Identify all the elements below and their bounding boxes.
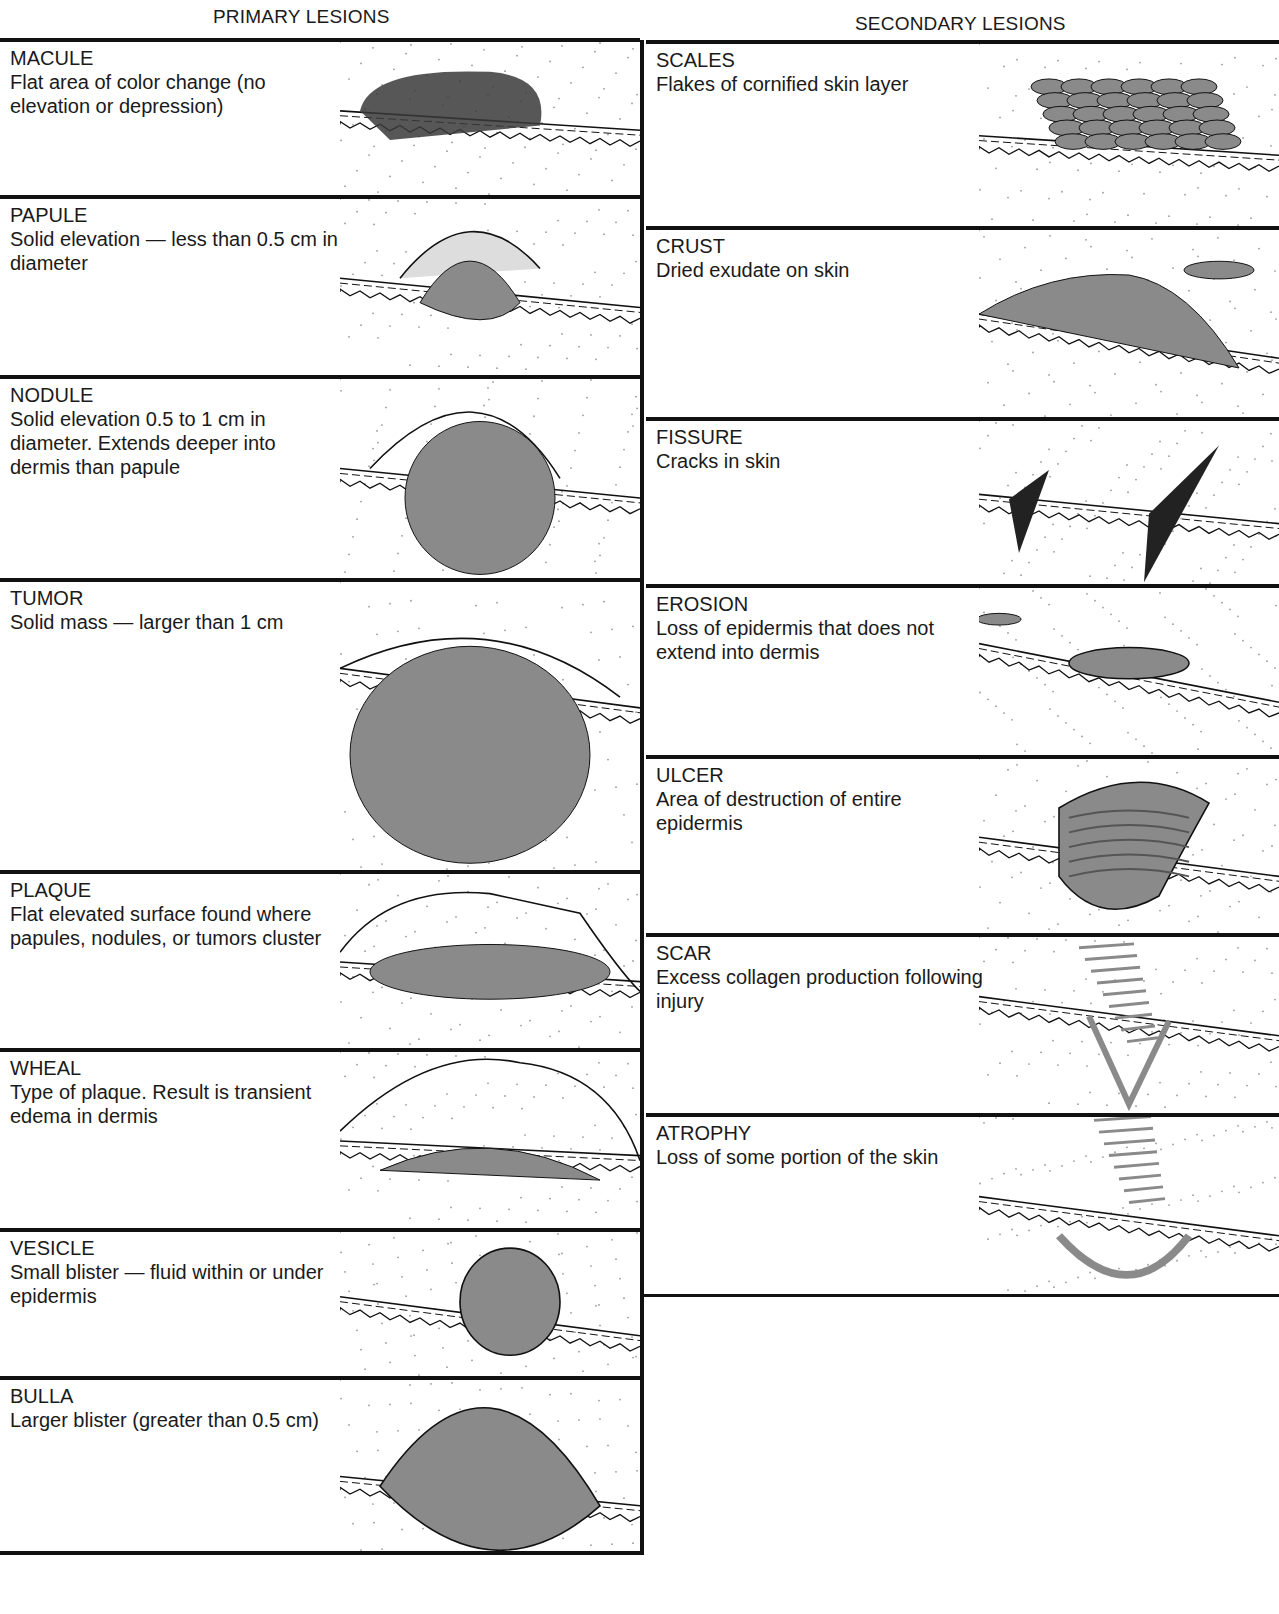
- lesion-text: TUMORSolid mass — larger than 1 cm: [10, 586, 340, 634]
- secondary-lesion-row-fissure: FISSURECracks in skin: [646, 417, 1279, 584]
- lesion-name: TUMOR: [10, 586, 340, 610]
- lesion-text: VESICLESmall blister — fluid within or u…: [10, 1236, 340, 1308]
- scales-illustration: [979, 44, 1279, 226]
- lesion-name: FISSURE: [656, 425, 986, 449]
- primary-lesion-row-macule: MACULEFlat area of color change (no elev…: [0, 38, 640, 195]
- lesion-text: PAPULESolid elevation — less than 0.5 cm…: [10, 203, 340, 275]
- lesion-name: SCALES: [656, 48, 986, 72]
- primary-lesion-row-wheal: WHEALType of plaque. Result is transient…: [0, 1048, 640, 1228]
- plaque-illustration: [340, 874, 640, 1048]
- lesion-description: Flat elevated surface found where papule…: [10, 902, 340, 950]
- lesion-description: Excess collagen production following inj…: [656, 965, 986, 1013]
- secondary-lesion-row-crust: CRUSTDried exudate on skin: [646, 226, 1279, 417]
- lesion-name: PLAQUE: [10, 878, 340, 902]
- lesion-description: Flakes of cornified skin layer: [656, 72, 986, 96]
- primary-lesion-row-tumor: TUMORSolid mass — larger than 1 cm: [0, 578, 640, 870]
- crust-illustration: [979, 230, 1279, 417]
- lesion-description: Area of destruction of entire epidermis: [656, 787, 986, 835]
- primary-lesion-row-bulla: BULLALarger blister (greater than 0.5 cm…: [0, 1376, 640, 1551]
- lesion-text: NODULESolid elevation 0.5 to 1 cm in dia…: [10, 383, 340, 479]
- lesion-name: BULLA: [10, 1384, 340, 1408]
- erosion-illustration: [979, 588, 1279, 755]
- lesion-text: EROSIONLoss of epidermis that does not e…: [656, 592, 986, 664]
- primary-lesion-row-vesicle: VESICLESmall blister — fluid within or u…: [0, 1228, 640, 1376]
- primary-bottom-rule: [0, 1551, 644, 1555]
- lesion-name: NODULE: [10, 383, 340, 407]
- primary-lesions-column: MACULEFlat area of color change (no elev…: [0, 38, 640, 1558]
- lesion-description: Loss of epidermis that does not extend i…: [656, 616, 986, 664]
- lesion-text: FISSURECracks in skin: [656, 425, 986, 473]
- lesion-description: Larger blister (greater than 0.5 cm): [10, 1408, 340, 1432]
- nodule-illustration: [340, 379, 640, 578]
- lesion-name: WHEAL: [10, 1056, 340, 1080]
- lesion-description: Dried exudate on skin: [656, 258, 986, 282]
- lesion-name: SCAR: [656, 941, 986, 965]
- lesion-description: Small blister — fluid within or under ep…: [10, 1260, 340, 1308]
- primary-lesion-row-plaque: PLAQUEFlat elevated surface found where …: [0, 870, 640, 1048]
- lesion-name: PAPULE: [10, 203, 340, 227]
- lesion-name: EROSION: [656, 592, 986, 616]
- lesion-text: ATROPHYLoss of some portion of the skin: [656, 1121, 986, 1169]
- lesion-text: ULCERArea of destruction of entire epide…: [656, 763, 986, 835]
- primary-lesion-row-papule: PAPULESolid elevation — less than 0.5 cm…: [0, 195, 640, 375]
- lesion-name: MACULE: [10, 46, 340, 70]
- secondary-lesion-row-ulcer: ULCERArea of destruction of entire epide…: [646, 755, 1279, 933]
- lesion-text: MACULEFlat area of color change (no elev…: [10, 46, 340, 118]
- secondary-lesion-row-erosion: EROSIONLoss of epidermis that does not e…: [646, 584, 1279, 755]
- lesion-description: Solid elevation — less than 0.5 cm in di…: [10, 227, 340, 275]
- lesion-description: Solid mass — larger than 1 cm: [10, 610, 340, 634]
- lesion-text: CRUSTDried exudate on skin: [656, 234, 986, 282]
- lesion-text: BULLALarger blister (greater than 0.5 cm…: [10, 1384, 340, 1432]
- ulcer-illustration: [979, 759, 1279, 933]
- primary-lesions-title: PRIMARY LESIONS: [213, 6, 390, 28]
- macule-illustration: [340, 42, 640, 195]
- secondary-lesions-title: SECONDARY LESIONS: [855, 13, 1066, 35]
- papule-illustration: [340, 199, 640, 375]
- fissure-illustration: [979, 421, 1279, 584]
- secondary-lesion-row-atrophy: ATROPHYLoss of some portion of the skin: [646, 1113, 1279, 1294]
- lesion-description: Solid elevation 0.5 to 1 cm in diameter.…: [10, 407, 340, 479]
- bulla-illustration: [340, 1380, 640, 1551]
- atrophy-illustration: [979, 1117, 1279, 1294]
- lesion-description: Loss of some portion of the skin: [656, 1145, 986, 1169]
- lesion-text: WHEALType of plaque. Result is transient…: [10, 1056, 340, 1128]
- secondary-lesion-row-scar: SCARExcess collagen production following…: [646, 933, 1279, 1113]
- wheal-illustration: [340, 1052, 640, 1228]
- secondary-bottom-rule: [640, 1294, 1279, 1297]
- lesion-text: SCARExcess collagen production following…: [656, 941, 986, 1013]
- secondary-lesion-row-scales: SCALESFlakes of cornified skin layer: [646, 40, 1279, 226]
- tumor-illustration: [340, 582, 640, 870]
- secondary-lesions-column: SCALESFlakes of cornified skin layer CRU…: [646, 40, 1279, 1300]
- vesicle-illustration: [340, 1232, 640, 1376]
- lesion-description: Cracks in skin: [656, 449, 986, 473]
- lesion-description: Type of plaque. Result is transient edem…: [10, 1080, 340, 1128]
- lesion-text: PLAQUEFlat elevated surface found where …: [10, 878, 340, 950]
- lesion-name: CRUST: [656, 234, 986, 258]
- primary-lesion-row-nodule: NODULESolid elevation 0.5 to 1 cm in dia…: [0, 375, 640, 578]
- scar-illustration: [979, 937, 1279, 1113]
- lesion-description: Flat area of color change (no elevation …: [10, 70, 340, 118]
- column-divider: [640, 40, 644, 1555]
- lesion-name: ULCER: [656, 763, 986, 787]
- lesion-name: VESICLE: [10, 1236, 340, 1260]
- lesion-text: SCALESFlakes of cornified skin layer: [656, 48, 986, 96]
- lesion-name: ATROPHY: [656, 1121, 986, 1145]
